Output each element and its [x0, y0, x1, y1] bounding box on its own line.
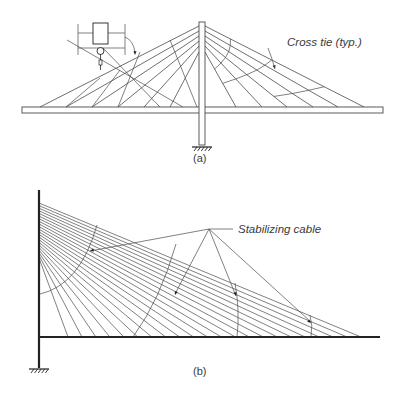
stay-cable: [170, 52, 199, 107]
ground-support-icon: [29, 369, 49, 373]
stay-cable: [40, 26, 199, 107]
stay-cable: [39, 258, 68, 337]
figure-a-caption: (a): [193, 152, 206, 164]
clamp-link-icon: [99, 60, 102, 65]
cross-tie: [309, 87, 325, 91]
cable-stayed-bridge-diagram: [0, 0, 401, 394]
cross-tie: [226, 52, 229, 58]
ground-support-icon: [192, 147, 212, 151]
cross-tie-label: Cross tie (typ.): [287, 36, 362, 48]
cross-tie: [118, 52, 140, 107]
label-leader: [90, 229, 209, 251]
stabilizing-cable: [310, 315, 312, 337]
stay-cable: [39, 227, 235, 337]
stay-cable: [39, 242, 152, 337]
stay-cable: [39, 250, 110, 337]
label-leader: [209, 229, 311, 322]
cross-tie: [257, 65, 265, 70]
figure-b-caption: (b): [193, 365, 206, 377]
cross-tie: [292, 90, 308, 93]
stay-cable: [39, 253, 96, 337]
detail-arrow-icon: [133, 51, 136, 55]
cross-tie: [236, 75, 247, 79]
cross-tie: [274, 94, 293, 97]
pylon-a: [199, 22, 205, 145]
stay-cable: [205, 52, 236, 107]
stay-cable: [39, 229, 221, 337]
clamp-ring-icon: [97, 48, 104, 55]
stabilizing-cable: [133, 244, 176, 337]
cross-tie: [223, 79, 236, 83]
cross-tie: [265, 60, 272, 65]
cross-tie: [221, 58, 226, 64]
stay-cable: [144, 46, 199, 107]
cross-tie: [247, 70, 257, 75]
cross-tie: [92, 70, 120, 107]
stabilizing-cable-label: Stabilizing cable: [238, 223, 321, 235]
cross-tie: [215, 63, 221, 69]
label-leader: [209, 229, 236, 296]
detail-leader: [125, 37, 135, 52]
stay-cable: [118, 41, 199, 107]
clamp-icon: [93, 23, 108, 44]
cross-tie: [103, 48, 160, 107]
cross-tie: [229, 45, 231, 51]
